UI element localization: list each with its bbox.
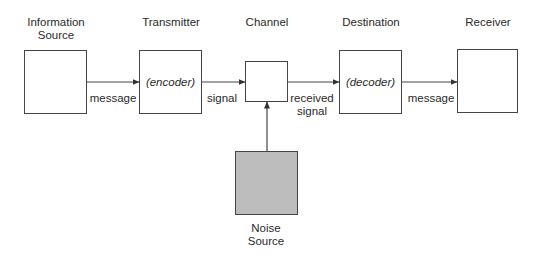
- received-line1: received: [290, 92, 333, 105]
- noise-label-line2: Source: [248, 235, 284, 248]
- noise-label-line1: Noise: [248, 222, 284, 235]
- edge-label-signal: signal: [207, 92, 237, 105]
- noise-source-label: Noise Source: [248, 222, 284, 248]
- received-line2: signal: [290, 105, 333, 118]
- edge-label-message-2: message: [408, 92, 455, 105]
- edge-label-received-signal: received signal: [290, 92, 333, 118]
- edge-label-message-1: message: [90, 92, 137, 105]
